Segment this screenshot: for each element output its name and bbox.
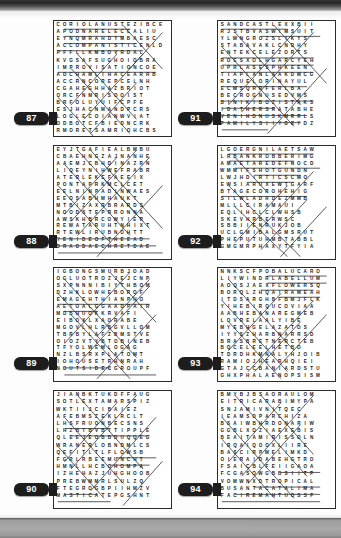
grid-cell (328, 203, 334, 210)
puzzle-number-badge: 88 (14, 235, 49, 248)
grid-cell (164, 147, 170, 154)
grid-cell (164, 114, 170, 121)
grid-cell (328, 428, 334, 435)
grid-cell (164, 100, 170, 107)
grid-cell (164, 168, 170, 175)
puzzle-page: CORIOLANUSTEZIBCEAPODNARELECCALIUEYNQMRA… (0, 0, 341, 538)
grid-cell (328, 392, 334, 399)
grid-cell (328, 107, 334, 114)
puzzle-number-badge: 90 (14, 483, 49, 496)
grid-cell (164, 421, 170, 428)
grid-cell (164, 121, 170, 128)
grid-cell (328, 359, 334, 366)
word-search-grid[interactable]: NNKSCFPOBALUCAROLIYWINDRLABELLUMAOQSJAEX… (217, 267, 336, 382)
grid-cell (328, 325, 334, 332)
grid-cell (328, 304, 334, 311)
grid-cell (164, 36, 170, 43)
grid-cell (328, 230, 334, 237)
grid-cell (164, 276, 170, 283)
grid-cell (164, 50, 170, 57)
grid-cell (328, 244, 334, 251)
grid-cell (328, 237, 334, 244)
grid-cell (164, 359, 170, 366)
grid-cell (164, 399, 170, 406)
grid-letters: IGBONGSMURBJOADOGLUOTROZJEJCNPSXPNNNIBIY… (55, 269, 170, 380)
grid-cell (164, 311, 170, 318)
grid-cell (164, 318, 170, 325)
grid-cell (164, 251, 170, 258)
grid-cell (328, 79, 334, 86)
grid-cell (328, 331, 334, 338)
grid-cell (328, 223, 334, 230)
grid-cell (164, 331, 170, 338)
grid-cell (164, 79, 170, 86)
page-bottom-band (0, 518, 341, 538)
grid-cell (164, 325, 170, 332)
puzzle-number: 92 (190, 237, 201, 246)
grid-cell (164, 64, 170, 71)
grid-letters: NNKSCFPOBALUCAROLIYWINDRLABELLUMAOQSJAEX… (219, 269, 334, 380)
grid-cell (328, 175, 334, 182)
grid-cell (328, 209, 334, 216)
grid-cell (164, 406, 170, 413)
grid-cell (328, 283, 334, 290)
grid-cell (164, 392, 170, 399)
grid-cell (328, 57, 334, 64)
word-search-grid[interactable]: CORIOLANUSTEZIBCEAPODNARELECCALIUEYNQMRA… (53, 20, 172, 137)
grid-cell (328, 36, 334, 43)
word-search-grid[interactable]: BMYBJBSAORAULOMEITRICARABIMYPASNJAMIVNIT… (217, 390, 336, 509)
grid-cell (328, 373, 334, 380)
puzzle-number-badge: 91 (178, 112, 213, 125)
puzzle-number: 94 (190, 485, 201, 494)
word-search-grid[interactable]: LGOERGNILAETSAWLRBANKROBBERIMGAMAETAREDE… (217, 145, 336, 260)
grid-letters: EYJTGAFIEALBMBUCBAEHNGZAJNANHEAAEMJCBHDI… (55, 147, 170, 258)
grid-cell (164, 22, 170, 29)
puzzle-number: 87 (26, 114, 37, 123)
grid-cell (164, 154, 170, 161)
word-search-grid[interactable]: IGBONGSMURBJOADOGLUOTROZJEJCNPSXPNNNIBIY… (53, 267, 172, 382)
grid-letters: BMYBJBSAORAULOMEITRICARABIMYPASNJAMIVNIT… (219, 392, 334, 507)
grid-letters: JIANBKTUKDFFAUGSOTLEXTAMARSPIZWKTIIJCIBA… (55, 392, 170, 507)
grid-cell (328, 450, 334, 457)
grid-cell (328, 338, 334, 345)
grid-cell (328, 168, 334, 175)
grid-cell (164, 457, 170, 464)
grid-letters: CORIOLANUSTEZIBCEAPODNARELECCALIUEYNQMRA… (55, 22, 170, 135)
grid-cell (164, 93, 170, 100)
grid-cell (164, 373, 170, 380)
grid-cell (328, 71, 334, 78)
grid-cell (164, 203, 170, 210)
grid-cell (164, 414, 170, 421)
grid-cell (164, 450, 170, 457)
puzzle-number: 93 (190, 359, 201, 368)
grid-cell (164, 297, 170, 304)
grid-cell (164, 29, 170, 36)
grid-cell (164, 338, 170, 345)
grid-cell (164, 500, 170, 507)
grid-cell (328, 352, 334, 359)
grid-cell (164, 128, 170, 135)
puzzle-number-badge: 89 (14, 357, 49, 370)
grid-cell (328, 93, 334, 100)
word-search-grid[interactable]: JIANBKTUKDFFAUGSOTLEXTAMARSPIZWKTIIJCIBA… (53, 390, 172, 509)
grid-cell (164, 464, 170, 471)
puzzle-number-badge: 87 (14, 112, 49, 125)
grid-cell (164, 435, 170, 442)
grid-cell (328, 43, 334, 50)
grid-cell (328, 493, 334, 500)
puzzle-number-badge: 93 (178, 357, 213, 370)
grid-cell (328, 100, 334, 107)
word-search-grid[interactable]: SANDCASTLEXXBIIRJSTBVASWIMSUITYLWNGROZSL… (217, 20, 336, 137)
grid-cell (328, 290, 334, 297)
grid-cell (164, 478, 170, 485)
grid-letters: SANDCASTLEXXBIIRJSTBVASWIMSUITYLWNGROZSL… (219, 22, 334, 135)
grid-cell (164, 283, 170, 290)
grid-cell (328, 366, 334, 373)
grid-cell (164, 196, 170, 203)
grid-cell (328, 114, 334, 121)
grid-cell (328, 406, 334, 413)
grid-cell (328, 251, 334, 258)
word-search-grid[interactable]: EYJTGAFIEALBMBUCBAEHNGZAJNANHEAAEMJCBHDI… (53, 145, 172, 260)
grid-cell (328, 442, 334, 449)
grid-cell (328, 435, 334, 442)
